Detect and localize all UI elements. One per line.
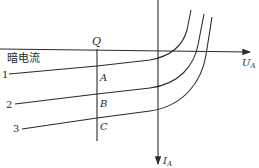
point-b-label: B	[100, 99, 107, 109]
iv-characteristic-diagram: Q 暗电流 1 2 3 A B C UA IA	[0, 0, 259, 168]
diagram-canvas	[0, 0, 259, 168]
y-axis-subscript: A	[167, 160, 172, 168]
y-axis-label: IA	[163, 156, 172, 168]
curve-1-label: 1	[2, 70, 8, 80]
dark-current-label: 暗电流	[7, 53, 40, 64]
x-axis-label: UA	[242, 58, 256, 70]
q-label: Q	[92, 36, 101, 47]
curve-2-label: 2	[6, 100, 12, 110]
point-a-label: A	[100, 73, 107, 83]
x-axis-subscript: A	[250, 62, 255, 70]
point-c-label: C	[100, 122, 108, 132]
curve-3-label: 3	[13, 124, 19, 134]
curve-2	[15, 14, 204, 104]
